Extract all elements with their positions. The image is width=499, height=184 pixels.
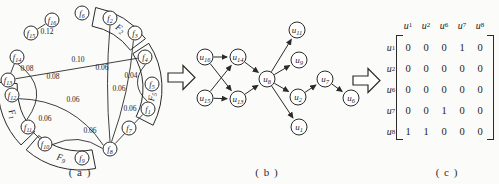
- node-label-subscript: 6: [82, 13, 85, 19]
- matrix-row-header-u7: u7: [383, 100, 399, 121]
- directed-edge-u14-u8: [245, 62, 258, 72]
- group-label-F9: F9: [55, 151, 68, 164]
- matrix-cell-r1-c0: 0: [399, 58, 417, 79]
- node-label-subscript: 4: [145, 57, 148, 63]
- edge-weight-f2-f8: 0.06: [95, 63, 108, 72]
- matrix-cell-r0-c2: 0: [435, 37, 453, 58]
- node-label-subscript: 14: [237, 56, 244, 63]
- directed-edge-u8-u1: [272, 86, 293, 118]
- matrix-cell-r3-c2: 1: [435, 100, 453, 121]
- node-label-subscript: 10: [43, 144, 49, 150]
- node-label-subscript: 13: [6, 80, 12, 86]
- node-label-subscript: 14: [15, 57, 21, 63]
- matrix-col-header-u2: u2: [417, 16, 435, 34]
- matrix-cell-r3-c0: 0: [399, 100, 417, 121]
- matrix-row-header-u6: u6: [383, 79, 399, 100]
- caption-b: ( b ): [239, 166, 295, 178]
- matrix-cell-r3-c4: 0: [471, 100, 489, 121]
- matrix-cell-r1-c2: 0: [435, 58, 453, 79]
- matrix-cell-r2-c2: 0: [435, 79, 453, 100]
- matrix-cell-r2-c3: 0: [453, 79, 471, 100]
- edge-f13-f14: [11, 64, 15, 73]
- edge-weight-f10-f8: 0.06: [83, 126, 96, 135]
- directed-edge-u8-u2: [274, 83, 288, 91]
- matrix-grid: u1u2u6u7u8u100010u200000u600000u700100u8…: [383, 16, 489, 142]
- node-label-subscript: 9: [82, 158, 85, 164]
- matrix-cell-r2-c1: 0: [417, 79, 435, 100]
- right-block-arrow-icon: [353, 69, 380, 93]
- matrix-cell-r1-c4: 0: [471, 58, 489, 79]
- matrix-cell-r4-c0: 1: [399, 121, 417, 142]
- node-label-subscript: 5: [152, 84, 155, 90]
- panel-c-adjacency-matrix: u1u2u6u7u8u100010u200000u600000u700100u8…: [383, 16, 497, 142]
- matrix-cell-r0-c4: 0: [471, 37, 489, 58]
- node-label-subscript: 3: [134, 33, 138, 39]
- directed-edge-u2-u7: [305, 85, 316, 92]
- edge-weight-f12-f8: 0.06: [66, 95, 79, 104]
- edge-weight-f13-f4: 0.10: [71, 55, 84, 64]
- panel-b-directed-user-graph: u16u14u15u13u8u11u9u2u1u7u6: [197, 22, 359, 135]
- matrix-col-header-u8: u8: [471, 16, 489, 34]
- matrix-cell-r3-c3: 0: [453, 100, 471, 121]
- matrix-row-header-u8: u8: [383, 121, 399, 142]
- matrix-cell-r2-c4: 0: [471, 79, 489, 100]
- arrow-a-to-b-icon: [168, 66, 195, 90]
- matrix-cell-r1-c1: 0: [417, 58, 435, 79]
- group-label-subscript: 5: [151, 92, 158, 97]
- figure-canvas: F2F5F9F10.120.080.080.100.060.060.060.06…: [0, 0, 499, 184]
- matrix-cell-r2-c0: 0: [399, 79, 417, 100]
- matrix-row-header-u2: u2: [383, 58, 399, 79]
- edge-f10-f8: [52, 139, 102, 148]
- matrix-corner-cell: [383, 16, 399, 34]
- matrix-cell-r4-c3: 0: [453, 121, 471, 142]
- matrix-row-header-u1: u1: [383, 37, 399, 58]
- node-label-subscript: 16: [50, 20, 56, 26]
- matrix-cell-r1-c3: 0: [453, 58, 471, 79]
- node-label-subscript: 15: [204, 97, 211, 104]
- edge-weight-f4-f1: 0.04: [124, 71, 137, 80]
- matrix-cell-r4-c1: 1: [417, 121, 435, 142]
- group-label-subscript: 9: [61, 157, 67, 165]
- node-label-subscript: 1: [148, 109, 151, 115]
- caption-a: ( a ): [52, 166, 108, 178]
- directed-edge-u13-u8: [245, 85, 258, 94]
- panel-a-feature-circle-graph: F2F5F9F10.120.080.080.100.060.060.060.06…: [0, 6, 162, 170]
- edge-f2-f8: [108, 26, 111, 142]
- node-label-subscript: 8: [110, 149, 113, 155]
- edge-weight-f3-f8: 0.06: [112, 84, 125, 93]
- matrix-cell-r4-c2: 0: [435, 121, 453, 142]
- edge-weight-f1-f8: 0.06: [123, 104, 136, 113]
- matrix-cell-r3-c1: 0: [417, 100, 435, 121]
- arrow-b-to-c-icon: [353, 69, 380, 93]
- right-block-arrow-icon: [168, 66, 195, 90]
- matrix-col-header-u1: u1: [399, 16, 417, 34]
- node-label-subscript: 15: [29, 33, 35, 39]
- node-label-subscript: 11: [296, 29, 302, 36]
- caption-c: ( c ): [419, 166, 475, 178]
- matrix-cell-r0-c0: 0: [399, 37, 417, 58]
- node-label-subscript: 12: [10, 95, 16, 101]
- node-label-subscript: 2: [110, 18, 113, 24]
- matrix-cell-r4-c4: 0: [471, 121, 489, 142]
- matrix-col-header-u7: u7: [453, 16, 471, 34]
- matrix-cell-r0-c1: 0: [417, 37, 435, 58]
- node-label-subscript: 13: [237, 98, 244, 105]
- directed-edge-u15-u14: [210, 66, 231, 92]
- directed-edge-u7-u6: [332, 84, 342, 91]
- edge-weight-f11-f10: 0.06: [38, 114, 51, 123]
- directed-edge-u16-u13: [210, 64, 231, 91]
- node-label-subscript: 1: [300, 126, 303, 133]
- node-label-subscript: 11: [26, 127, 32, 133]
- node-label-subscript: 16: [204, 56, 211, 63]
- edge-weight-f15-f16: 0.12: [40, 27, 53, 36]
- matrix-col-header-u6: u6: [435, 16, 453, 34]
- group-label-F1: F1: [5, 107, 19, 120]
- directed-edge-u8-u9: [274, 66, 289, 75]
- matrix-cell-r0-c3: 1: [453, 37, 471, 58]
